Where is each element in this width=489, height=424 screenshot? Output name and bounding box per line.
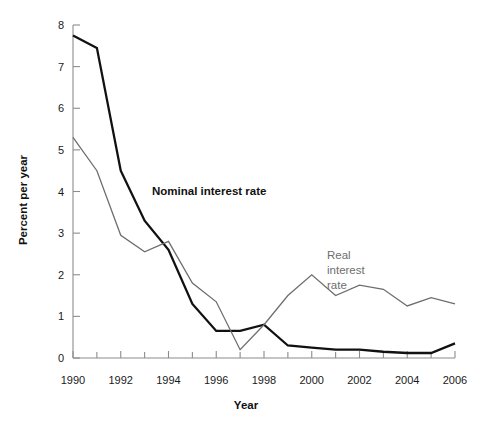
y-tick-label-6: 6 xyxy=(58,102,64,114)
x-tick-label-1994: 1994 xyxy=(156,374,180,386)
y-tick-label-5: 5 xyxy=(58,144,64,156)
annotation-real-interest-rate-line1: Real xyxy=(327,249,351,261)
x-tick-label-1990: 1990 xyxy=(61,374,85,386)
annotation-real-interest-rate-line3: rate xyxy=(327,279,347,291)
y-tick-label-1: 1 xyxy=(58,310,64,322)
x-tick-label-2002: 2002 xyxy=(347,374,371,386)
x-tick-label-1998: 1998 xyxy=(252,374,276,386)
x-axis-title: Year xyxy=(234,399,259,411)
x-tick-label-1992: 1992 xyxy=(109,374,133,386)
y-tick-label-8: 8 xyxy=(58,19,64,31)
annotation-nominal-interest-rate: Nominal interest rate xyxy=(152,185,266,197)
annotation-real-interest-rate-line2: interest xyxy=(327,264,366,276)
y-tick-label-4: 4 xyxy=(58,186,64,198)
y-tick-label-2: 2 xyxy=(58,269,64,281)
x-axis-tick-labels: 199019921994199619982000200220042006 xyxy=(61,374,467,386)
y-axis-title: Percent per year xyxy=(17,154,29,245)
y-tick-label-0: 0 xyxy=(58,352,64,364)
x-tick-label-1996: 1996 xyxy=(204,374,228,386)
x-tick-label-2000: 2000 xyxy=(300,374,324,386)
y-tick-label-3: 3 xyxy=(58,227,64,239)
interest-rate-line-chart: 012345678 199019921994199619982000200220… xyxy=(0,0,489,424)
x-tick-label-2006: 2006 xyxy=(443,374,467,386)
x-tick-label-2004: 2004 xyxy=(395,374,419,386)
y-axis-tick-labels: 012345678 xyxy=(58,19,64,364)
y-tick-label-7: 7 xyxy=(58,61,64,73)
chart-figure: 012345678 199019921994199619982000200220… xyxy=(0,0,489,424)
